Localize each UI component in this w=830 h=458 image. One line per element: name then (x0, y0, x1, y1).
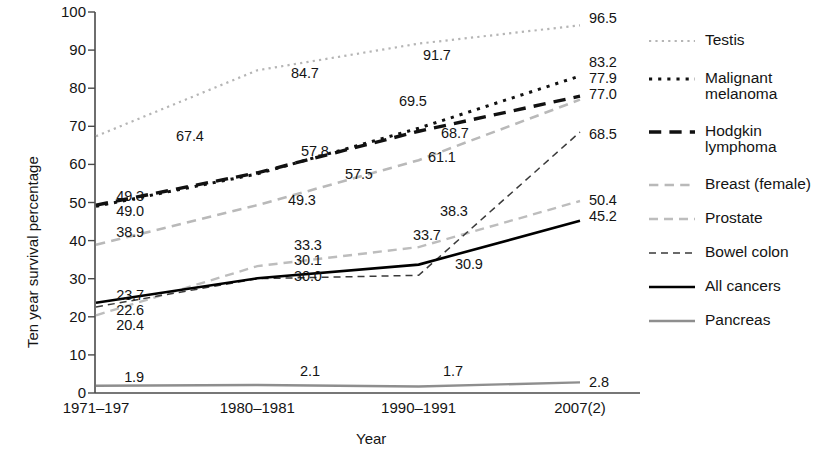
data-label: 50.4 (589, 192, 617, 208)
legend-label: Pancreas (705, 312, 770, 328)
legend-label: Bowel colon (705, 244, 789, 260)
legend-line-sample-icon (648, 278, 696, 292)
data-label: 77.9 (589, 70, 617, 86)
legend-line-sample-icon (648, 123, 696, 137)
series-line-hodgkin-lymphoma (96, 96, 580, 205)
data-label: 45.2 (589, 208, 617, 224)
data-label: 49.3 (288, 192, 316, 208)
legend-label: Hodgkin lymphoma (705, 123, 777, 155)
legend-item-pancreas[interactable]: Pancreas (648, 312, 770, 328)
data-label: 57.5 (345, 166, 373, 182)
data-label: 1.9 (84, 369, 144, 385)
data-label: 2.8 (589, 374, 609, 390)
data-label: 22.6 (84, 302, 144, 318)
legend-line-sample-icon (648, 32, 696, 46)
data-label: 57.8 (301, 143, 329, 159)
series-line-testis (96, 25, 580, 136)
legend-label: Prostate (705, 210, 763, 226)
legend-label: Testis (705, 32, 745, 48)
data-label: 91.7 (423, 47, 451, 63)
legend-item-malignant-melanoma[interactable]: Malignant melanoma (648, 70, 777, 102)
data-label: 84.7 (291, 65, 319, 81)
legend-line-sample-icon (648, 176, 696, 190)
data-label: 69.5 (399, 93, 427, 109)
data-label: 30.0 (294, 268, 322, 284)
series-line-prostate (96, 201, 580, 315)
data-label: 33.3 (294, 237, 322, 253)
data-label: 49.3 (84, 188, 144, 204)
series-line-malignant-melanoma (96, 76, 580, 206)
legend-item-hodgkin-lymphoma[interactable]: Hodgkin lymphoma (648, 123, 777, 155)
legend-line-sample-icon (648, 312, 696, 326)
legend-item-testis[interactable]: Testis (648, 32, 745, 48)
data-label: 33.7 (413, 227, 441, 243)
data-label: 68.5 (589, 126, 617, 142)
data-label: 30.1 (294, 252, 322, 268)
data-label: 23.7 (84, 287, 144, 303)
legend-item-bowel-colon[interactable]: Bowel colon (648, 244, 789, 260)
data-label: 30.9 (455, 256, 483, 272)
data-label: 67.4 (176, 128, 204, 144)
series-line-breast-(female) (96, 100, 580, 245)
legend-item-breast-female[interactable]: Breast (female) (648, 176, 811, 192)
series-line-bowel-colon (96, 132, 580, 307)
data-label: 96.5 (589, 10, 617, 26)
data-label: 61.1 (428, 149, 456, 165)
series-line-all-cancers (96, 221, 580, 303)
data-label: 1.7 (443, 363, 463, 379)
legend-line-sample-icon (648, 70, 696, 84)
data-label: 2.1 (300, 363, 320, 379)
legend-label: Malignant melanoma (705, 70, 777, 102)
data-label: 83.2 (589, 54, 617, 70)
legend-item-prostate[interactable]: Prostate (648, 210, 763, 226)
data-label: 68.7 (441, 125, 469, 141)
data-label: 49.0 (84, 203, 144, 219)
data-label: 38.9 (84, 224, 144, 240)
data-label: 38.3 (440, 203, 468, 219)
legend-line-sample-icon (648, 210, 696, 224)
data-label: 20.4 (84, 317, 144, 333)
legend-label: Breast (female) (705, 176, 811, 192)
series-line-pancreas (96, 382, 580, 386)
legend-label: All cancers (705, 278, 781, 294)
legend-line-sample-icon (648, 244, 696, 258)
chart-figure: Ten year survival percentage Year 010203… (0, 0, 830, 458)
legend-item-all-cancers[interactable]: All cancers (648, 278, 781, 294)
data-label: 77.0 (589, 86, 617, 102)
